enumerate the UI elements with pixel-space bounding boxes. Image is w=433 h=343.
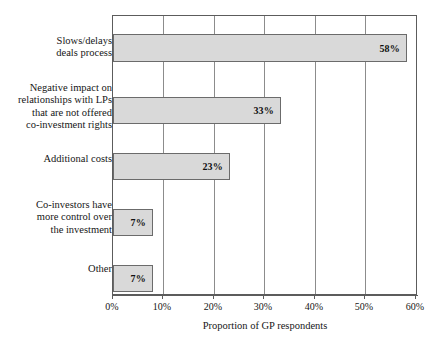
category-label-additional-costs: Additional costs	[0, 153, 112, 165]
x-tick-label-0: 0%	[92, 301, 132, 312]
bar-value-label: 33%	[253, 105, 280, 116]
x-tick-mark	[415, 295, 416, 299]
category-label-negative-impact: Negative impact on relationships with LP…	[0, 82, 112, 132]
x-tick-label-20: 20%	[193, 301, 233, 312]
bar-slows-delays[interactable]: 58%	[113, 34, 407, 62]
bar-negative-impact[interactable]: 33%	[113, 97, 281, 124]
x-tick-label-10: 10%	[142, 301, 182, 312]
category-label-co-investors-control: Co-investors have more control over the …	[0, 199, 112, 236]
bar-co-investors-control[interactable]: 7%	[113, 209, 153, 236]
x-tick-mark	[314, 295, 315, 299]
x-axis-line	[112, 295, 418, 296]
bar-other[interactable]: 7%	[113, 265, 153, 292]
bar-additional-costs[interactable]: 23%	[113, 153, 230, 180]
x-tick-label-30: 30%	[243, 301, 283, 312]
plot-area: 58% 33% 23% 7% 7%	[112, 15, 417, 295]
bar-value-label: 7%	[131, 273, 152, 284]
x-tick-label-50: 50%	[344, 301, 384, 312]
category-label-slows-delays: Slows/delays deals process	[0, 35, 112, 60]
bar-value-label: 7%	[131, 217, 152, 228]
x-tick-label-60: 60%	[395, 301, 433, 312]
x-tick-label-40: 40%	[294, 301, 334, 312]
x-tick-mark	[263, 295, 264, 299]
bar-value-label: 23%	[202, 161, 229, 172]
x-axis-title: Proportion of GP respondents	[112, 320, 418, 331]
x-tick-mark	[213, 295, 214, 299]
category-label-other: Other	[0, 263, 112, 275]
x-tick-mark	[162, 295, 163, 299]
bar-value-label: 58%	[379, 43, 406, 54]
x-tick-mark	[364, 295, 365, 299]
bar-chart: Slows/delays deals process Negative impa…	[0, 0, 433, 343]
x-tick-mark	[112, 295, 113, 299]
